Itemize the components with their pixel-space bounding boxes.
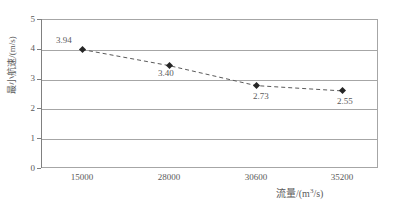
data-point-label-3: 2.55 [337,97,353,106]
gridline-2 [42,109,377,110]
x-tick-label-0: 15000 [52,172,112,182]
plot-area [41,19,378,168]
data-point-label-0: 3.94 [56,36,72,45]
y-tick-mark-0 [37,168,41,169]
y-tick-mark-4 [37,49,41,50]
y-tick-label-2: 2 [5,104,35,113]
y-axis-title: 最小航速/(m/s) [7,25,17,105]
x-tick-label-1: 28000 [139,172,199,182]
y-tick-mark-3 [37,79,41,80]
gridline-4 [42,50,377,51]
gridline-3 [42,80,377,81]
y-tick-label-1: 1 [5,134,35,143]
data-point-label-2: 2.73 [253,92,269,101]
y-tick-mark-5 [37,19,41,20]
data-point-label-1: 3.40 [158,69,174,78]
x-axis-title-prefix: 流量/(m [276,188,310,199]
y-tick-label-0: 0 [5,164,35,173]
x-axis-title: 流量/(m3/s) [276,186,323,199]
y-tick-label-5: 5 [5,15,35,24]
y-tick-mark-1 [37,138,41,139]
x-axis-title-suffix: /s) [313,188,323,199]
y-axis-line [41,19,42,168]
gridline-1 [42,139,377,140]
y-tick-mark-2 [37,108,41,109]
x-tick-label-3: 35200 [312,172,372,182]
chart-container: 5 4 3 2 1 0 最小航速/(m/s) 3.94 3.40 2.73 2.… [0,0,396,210]
x-tick-label-2: 30600 [226,172,286,182]
